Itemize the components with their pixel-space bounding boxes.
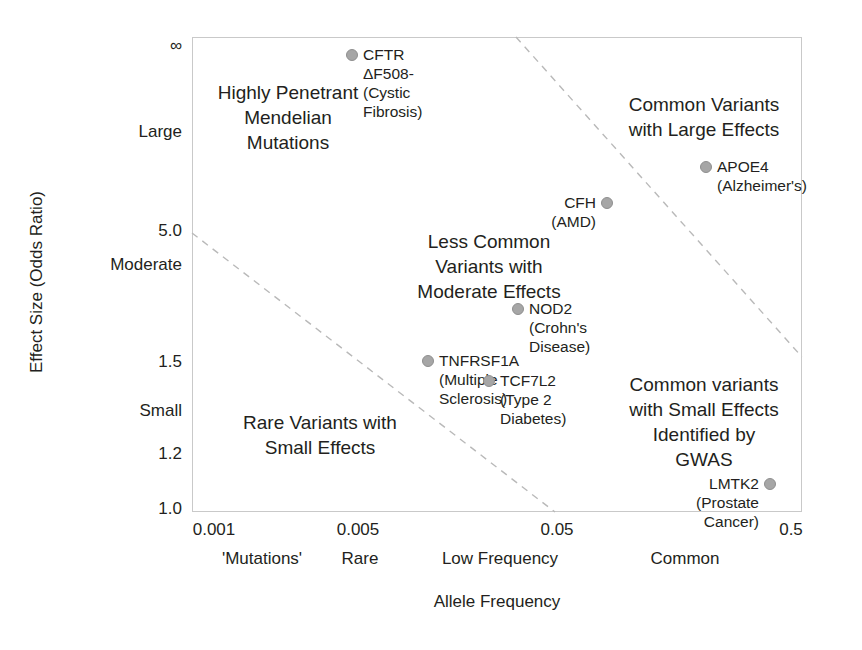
region-label-common-variants-with-large-effects: Common Variants with Large Effects xyxy=(554,92,854,142)
region-label-rare-variants-with-small-effects: Rare Variants with Small Effects xyxy=(170,410,470,460)
marker-dot xyxy=(601,197,613,209)
x-tick-0-05: 0.05 xyxy=(497,520,617,540)
data-point-label-apoe4: APOE4 (Alzheimer's) xyxy=(717,157,807,195)
data-point-label-lmtk2: LMTK2 (Prostate Cancer) xyxy=(696,474,759,531)
x-axis-title: Allele Frequency xyxy=(192,592,802,612)
data-point-label-nod2: NOD2 (Crohn's Disease) xyxy=(529,299,590,356)
marker-dot xyxy=(422,355,434,367)
data-point-label-cftr: CFTR ΔF508-(Cystic Fibrosis) xyxy=(363,45,422,121)
marker-dot xyxy=(346,49,358,61)
marker-dot xyxy=(700,161,712,173)
x-tick-0-001: 0.001 xyxy=(154,520,274,540)
region-label-less-common-variants-with-moderate-effects: Less Common Variants with Moderate Effec… xyxy=(339,229,639,304)
data-point-label-cfh: CFH (AMD) xyxy=(551,193,596,231)
marker-dot xyxy=(512,303,524,315)
marker-dot xyxy=(483,375,495,387)
x-tick-0-005: 0.005 xyxy=(298,520,418,540)
data-point-label-tcf7l2: TCF7L2 (Type 2 Diabetes) xyxy=(500,371,566,428)
marker-dot xyxy=(764,478,776,490)
x-category-low-frequency: Low Frequency xyxy=(410,549,590,569)
genetic-architecture-scatter-chart: Effect Size (Odds Ratio) ∞ Large 5.0 Mod… xyxy=(0,0,862,650)
region-label-common-variants-with-small-effects-gwas: Common variants with Small Effects Ident… xyxy=(554,372,854,472)
x-category-common: Common xyxy=(595,549,775,569)
